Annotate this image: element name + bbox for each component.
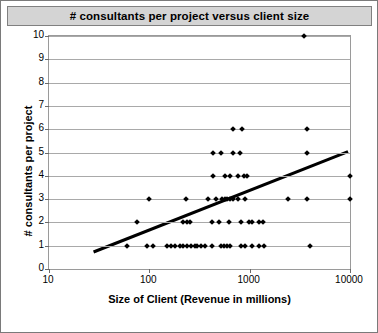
y-axis-tick-label: 9 <box>20 53 44 63</box>
y-axis-tick-labels: 012345678910 <box>18 35 44 270</box>
x-axis-tick-label: 10 <box>18 275 78 285</box>
y-axis-tick <box>45 36 49 37</box>
plot-area <box>48 35 351 270</box>
chart-window: # consultants per project versus client … <box>0 0 378 333</box>
y-axis-tick <box>45 106 49 107</box>
y-axis-title-container: # consultants per project <box>1 35 19 270</box>
x-axis-title: Size of Client (Revenue in millions) <box>48 293 351 305</box>
y-axis-tick <box>45 59 49 60</box>
gridline <box>49 59 350 60</box>
y-axis-tick <box>45 199 49 200</box>
y-axis-tick-label: 5 <box>20 147 44 157</box>
y-axis-tick-label: 7 <box>20 100 44 110</box>
y-axis-tick <box>45 153 49 154</box>
y-axis-tick-label: 3 <box>20 193 44 203</box>
y-axis-tick <box>45 83 49 84</box>
x-axis-tick-labels: 10100100010000 <box>48 275 351 289</box>
y-axis-tick <box>45 176 49 177</box>
y-axis-tick-label: 0 <box>20 263 44 273</box>
x-axis-tick <box>250 269 251 273</box>
gridline <box>49 106 350 107</box>
x-axis-tick-label: 10000 <box>319 275 378 285</box>
y-axis-tick-label: 6 <box>20 123 44 133</box>
x-axis-tick <box>350 269 351 273</box>
gridline <box>49 176 350 177</box>
gridline <box>49 222 350 223</box>
y-axis-tick <box>45 129 49 130</box>
page-title: # consultants per project versus client … <box>70 10 310 22</box>
y-axis-tick-label: 8 <box>20 77 44 87</box>
x-axis-tick <box>149 269 150 273</box>
y-axis-tick-label: 1 <box>20 240 44 250</box>
y-axis-tick-label: 4 <box>20 170 44 180</box>
y-axis-tick <box>45 246 49 247</box>
chart-title-bar: # consultants per project versus client … <box>7 6 372 26</box>
y-axis-tick-label: 10 <box>20 30 44 40</box>
y-axis-tick-label: 2 <box>20 216 44 226</box>
data-point <box>347 173 353 179</box>
y-axis-tick <box>45 222 49 223</box>
x-axis-tick-label: 100 <box>118 275 178 285</box>
x-axis-tick <box>49 269 50 273</box>
x-axis-tick-label: 1000 <box>219 275 279 285</box>
gridline <box>49 83 350 84</box>
